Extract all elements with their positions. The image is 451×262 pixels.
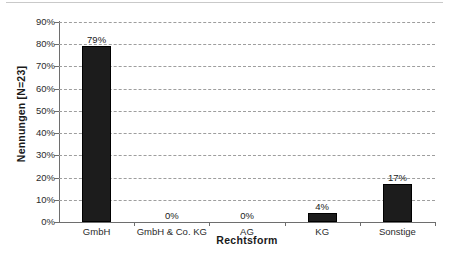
y-axis-tick-mark [54, 44, 59, 45]
y-axis-tick-mark [54, 89, 59, 90]
chart-screenshot: Nennungen [N=23] 90%80%70%60%50%40%30%20… [0, 0, 451, 262]
x-axis-title: Rechtsform [59, 234, 435, 246]
y-axis-tick-label: 60% [21, 84, 55, 94]
gridline [59, 155, 435, 156]
y-axis-tick-mark [54, 155, 59, 156]
y-axis-tick-label: 0% [21, 217, 55, 227]
y-axis-tick-label: 20% [21, 173, 55, 183]
bar-value-label: 4% [297, 201, 347, 212]
gridline [59, 200, 435, 201]
y-axis-tick-label: 90% [21, 17, 55, 27]
x-axis-tick-mark [435, 222, 436, 226]
y-axis-tick-mark [54, 22, 59, 23]
y-axis-tick-label: 40% [21, 128, 55, 138]
bar-value-label: 0% [147, 210, 197, 221]
y-axis-tick-label: 50% [21, 106, 55, 116]
page-divider-rule [6, 2, 443, 3]
gridline [59, 66, 435, 67]
y-axis-tick-mark [54, 66, 59, 67]
gridline [59, 22, 435, 23]
y-axis-tick-mark [54, 133, 59, 134]
y-axis-tick-label: 10% [21, 195, 55, 205]
bar-value-label: 0% [222, 210, 272, 221]
gridline [59, 89, 435, 90]
bar-value-label: 79% [72, 34, 122, 45]
bar [82, 46, 111, 222]
y-axis-tick-label: 30% [21, 150, 55, 160]
bar-value-label: 17% [372, 172, 422, 183]
bar [383, 184, 412, 222]
y-axis-tick-mark [54, 178, 59, 179]
gridline [59, 133, 435, 134]
plot-area [59, 22, 435, 222]
y-axis-tick-label: 70% [21, 61, 55, 71]
y-axis-tick-mark [54, 200, 59, 201]
y-axis-tick-mark [54, 222, 59, 223]
y-axis-tick-label: 80% [21, 39, 55, 49]
gridline [59, 222, 435, 223]
y-axis-tick-mark [54, 111, 59, 112]
bar [308, 213, 337, 222]
gridline [59, 111, 435, 112]
